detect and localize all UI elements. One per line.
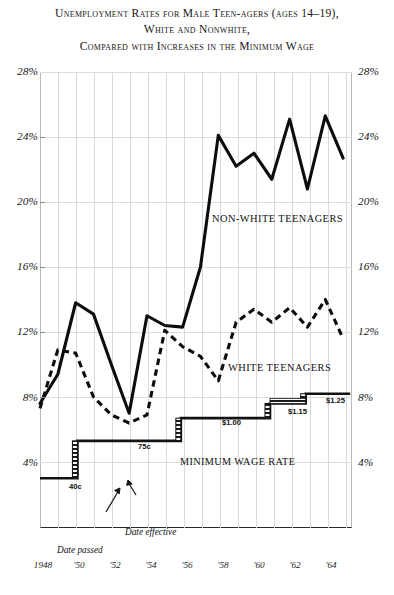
x-axis-label-1956: '56 (181, 560, 192, 570)
y-axis-label-left-8: 8% (0, 391, 38, 403)
wage-value-125: $1.25 (326, 396, 345, 405)
y-axis-label-left-20: 20% (0, 195, 38, 207)
wage-riser-hatch-75c (72, 441, 77, 478)
x-axis-label-1950: '50 (73, 560, 84, 570)
series-label-white: WHITE TEENAGERS (228, 362, 331, 373)
note-date-effective: Date effective (125, 527, 176, 537)
chart-title-line-2: White and Nonwhite, (0, 22, 394, 38)
series-label-nonwhite: NON-WHITE TEENAGERS (212, 213, 343, 224)
y-axis-label-left-16: 16% (0, 260, 38, 272)
chart-root: Unemployment Rates for Male Teen-agers (… (0, 0, 394, 595)
x-axis-label-1954: '54 (145, 560, 156, 570)
y-axis-label-right-28: 28% (358, 65, 394, 77)
y-tick-20 (40, 202, 45, 203)
chart-title-line-3: Compared with Increases in the Minimum W… (0, 39, 394, 55)
x-axis-label-1960: '60 (253, 560, 264, 570)
y-tick-12 (40, 332, 45, 333)
y-axis-label-left-12: 12% (0, 325, 38, 337)
x-axis-label-1962: '62 (289, 560, 300, 570)
y-axis-label-left-28: 28% (0, 65, 38, 77)
wage-riser-hatch-$1.15 (265, 404, 270, 419)
x-axis-label-1964: '64 (325, 560, 336, 570)
wage-value-40c: 40c (69, 482, 82, 491)
note-date-passed: Date passed (57, 545, 103, 555)
chart-title-line-1: Unemployment Rates for Male Teen-agers (… (0, 6, 394, 22)
y-axis-label-right-24: 24% (358, 130, 394, 142)
date-passed-arrowhead (115, 488, 120, 494)
wage-value-75c: 75c (138, 442, 151, 451)
y-tick-24 (40, 137, 45, 138)
date-effective-arrowhead (127, 480, 133, 485)
wage-value-115: $1.15 (288, 407, 307, 416)
wage-band-hatch-115 (270, 399, 306, 404)
x-axis-label-1952: '52 (109, 560, 120, 570)
y-axis-label-right-4: 4% (358, 456, 394, 468)
date-passed-arrow-line (106, 490, 119, 512)
wage-value-100: $1.00 (222, 418, 241, 427)
y-tick-8 (40, 397, 45, 398)
wage-riser-hatch-$1.00 (176, 418, 181, 441)
y-tick-16 (40, 267, 45, 268)
y-axis-label-right-20: 20% (358, 195, 394, 207)
y-axis-label-left-24: 24% (0, 130, 38, 142)
y-axis-label-left-4: 4% (0, 456, 38, 468)
y-axis-label-right-8: 8% (358, 391, 394, 403)
chart-title: Unemployment Rates for Male Teen-agers (… (0, 6, 394, 55)
y-axis-label-right-16: 16% (358, 260, 394, 272)
x-axis-label-1948: 1948 (34, 560, 52, 570)
annotation-arrows (106, 480, 136, 512)
y-axis-label-right-12: 12% (358, 325, 394, 337)
x-axis-label-1958: '58 (217, 560, 228, 570)
series-label-minimum-wage: MINIMUM WAGE RATE (180, 456, 295, 467)
